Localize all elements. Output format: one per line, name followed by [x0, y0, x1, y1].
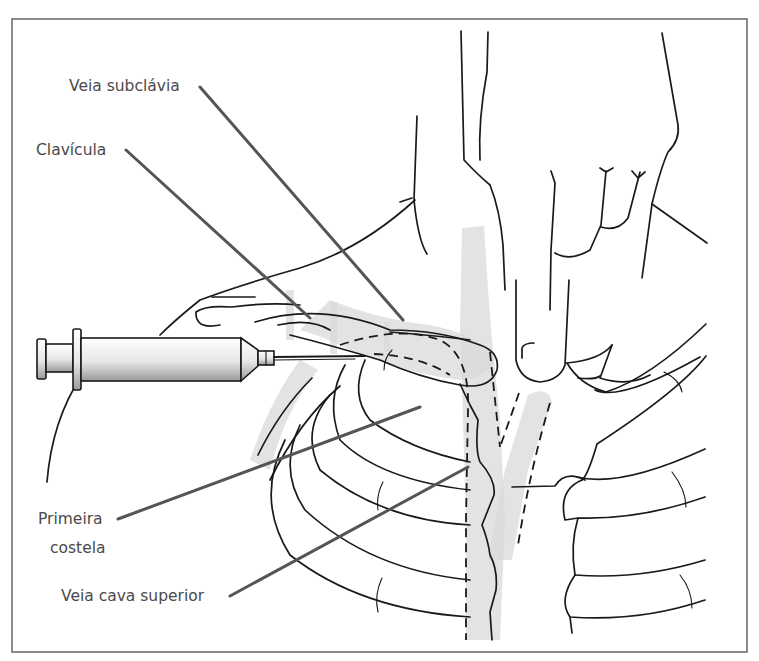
label-clavicula: Clavícula [36, 141, 106, 159]
label-primeira-costela-line1: Primeira [38, 510, 103, 528]
syringe-tip [241, 338, 258, 381]
syringe-needle [274, 356, 365, 357]
leader-veia-cava-superior [230, 467, 468, 596]
label-veia-subclavia: Veia subclávia [69, 77, 180, 95]
syringe [37, 329, 365, 390]
syringe-plunger [46, 344, 73, 372]
syringe-barrel [81, 338, 241, 381]
ribs-right [563, 324, 706, 633]
label-veia-cava-superior: Veia cava superior [61, 587, 205, 605]
label-primeira-costela-line2: costela [50, 539, 106, 557]
anatomy-figure: Veia subclávia Clavícula Primeira costel… [0, 0, 759, 661]
syringe-flange [73, 329, 81, 390]
leader-veia-subclavia [200, 87, 403, 320]
vein-shading [250, 226, 552, 640]
syringe-plunger-cap [37, 339, 46, 379]
